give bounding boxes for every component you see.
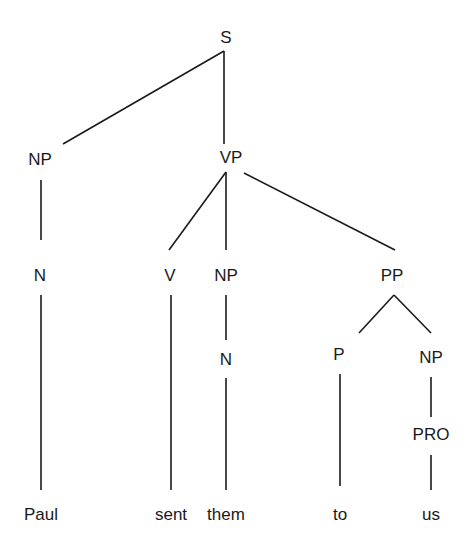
node-n-subject: N: [34, 266, 46, 286]
leaf-them: them: [207, 505, 245, 525]
tree-edge: [169, 172, 226, 250]
tree-edge: [244, 173, 395, 250]
tree-edge: [63, 51, 224, 144]
node-np-pp: NP: [419, 348, 443, 368]
leaf-paul: Paul: [24, 505, 58, 525]
leaf-sent: sent: [155, 505, 187, 525]
node-vp: VP: [220, 148, 243, 168]
node-p: P: [333, 345, 344, 365]
leaf-us: us: [422, 505, 440, 525]
tree-edge: [359, 295, 394, 333]
node-np-subject: NP: [28, 150, 52, 170]
node-pp: PP: [381, 266, 404, 286]
leaf-to: to: [333, 505, 347, 525]
tree-edge: [394, 295, 431, 333]
node-s: S: [220, 28, 231, 48]
node-v: V: [164, 266, 175, 286]
node-n-object: N: [220, 350, 232, 370]
node-np-object: NP: [214, 266, 238, 286]
node-pro: PRO: [413, 425, 450, 445]
